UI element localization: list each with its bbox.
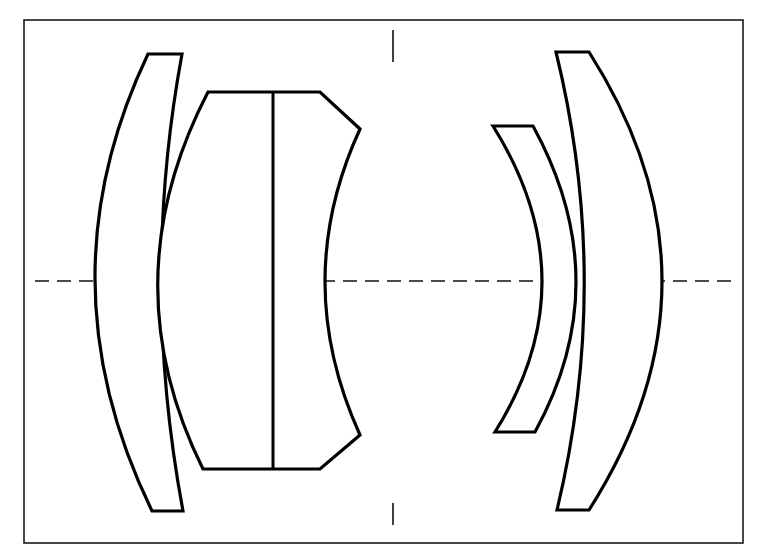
lens-element-3 bbox=[493, 126, 576, 432]
lens-diagram-canvas bbox=[0, 0, 759, 556]
lens-diagram: Lens element layout with optical axis bbox=[0, 0, 759, 556]
